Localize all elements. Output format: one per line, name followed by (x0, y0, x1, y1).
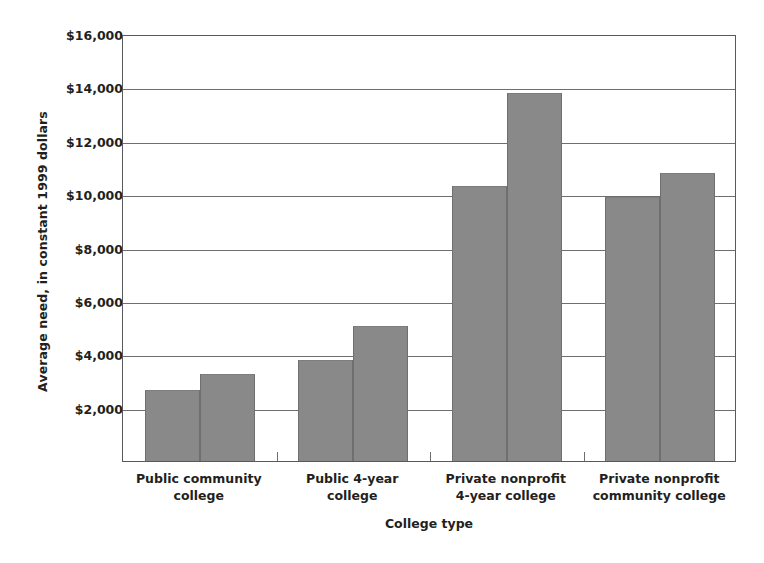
x-axis-category-label: Private nonprofit4-year college (429, 470, 583, 504)
x-axis-tick (277, 452, 278, 461)
x-axis-category-label-line: college (122, 487, 276, 504)
x-axis-category-label-line: 4-year college (429, 487, 583, 504)
y-axis-tick-label: $6,000 (0, 294, 132, 309)
x-axis-category-label: Public communitycollege (122, 470, 276, 504)
x-axis-tick (584, 452, 585, 461)
y-axis-tick-label: $16,000 (0, 28, 132, 43)
x-axis-category-label-line: college (276, 487, 430, 504)
y-axis-tick-label: $12,000 (0, 134, 132, 149)
x-axis-category-label: Public 4-yearcollege (276, 470, 430, 504)
x-axis-title: College type (122, 516, 736, 531)
y-axis-tick-label: $4,000 (0, 348, 132, 363)
plot-area (122, 35, 736, 462)
x-axis-ticks (123, 36, 735, 461)
y-axis-tick-label: $8,000 (0, 241, 132, 256)
y-axis-tick-label: $10,000 (0, 188, 132, 203)
x-axis-category-labels: Public communitycollegePublic 4-yearcoll… (122, 470, 736, 516)
x-axis-category-label-line: community college (583, 487, 737, 504)
x-axis-category-label-line: Public 4-year (276, 470, 430, 487)
x-axis-category-label-line: Private nonprofit (583, 470, 737, 487)
y-axis-tick-label: $2,000 (0, 401, 132, 416)
x-axis-category-label-line: Private nonprofit (429, 470, 583, 487)
y-axis-tick-label: $14,000 (0, 81, 132, 96)
x-axis-category-label: Private nonprofitcommunity college (583, 470, 737, 504)
bar-chart: Average need, in constant 1999 dollars $… (0, 0, 764, 563)
x-axis-tick (430, 452, 431, 461)
x-axis-category-label-line: Public community (122, 470, 276, 487)
y-axis-tick-labels: $2,000$4,000$6,000$8,000$10,000$12,000$1… (0, 0, 132, 563)
